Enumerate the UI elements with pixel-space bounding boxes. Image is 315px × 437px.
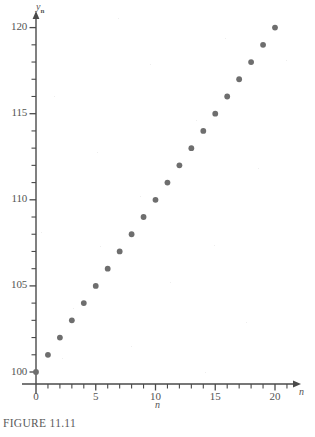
figure-caption: FIGURE 11.11 [3,417,76,429]
y-axis-label: yn [36,1,44,15]
y-tick-label: 110 [12,192,28,204]
scatter-plot: 10010511011512005101520 yn n [0,0,315,400]
data-point [177,162,183,168]
paper-speck [131,346,132,347]
data-point [69,317,75,323]
data-point [224,94,230,100]
paper-speck [214,245,215,246]
paper-speck [246,322,247,323]
paper-speck [225,38,226,39]
x-axis-label: n [299,386,304,397]
data-point [105,266,111,272]
data-point [57,335,63,341]
paper-speck [73,308,74,309]
paper-speck [196,120,197,121]
y-tick-label: 120 [11,20,27,32]
data-point [129,231,135,237]
paper-speck [150,64,151,65]
x-axis-caption-label: n [0,399,315,410]
paper-speck [97,152,98,153]
y-tick-label: 105 [11,278,27,290]
data-point [236,76,242,82]
data-point [93,283,99,289]
plot-svg [0,0,315,400]
data-point [33,369,39,375]
data-point [141,214,147,220]
data-point [153,197,159,203]
paper-speck [62,358,63,359]
data-point [188,145,194,151]
paper-speck [54,96,55,97]
y-tick-label: 100 [11,365,27,377]
data-point [260,42,266,48]
data-point [200,128,206,134]
paper-speck [100,246,101,247]
paper-speck [140,196,141,197]
paper-speck [170,282,171,283]
paper-speck [258,168,259,169]
y-tick-label: 115 [12,106,28,118]
data-point [272,25,278,31]
data-point [165,180,171,186]
data-point [117,249,123,255]
data-point [212,111,218,117]
figure-11-11: 10010511011512005101520 yn n n FIGURE 11… [0,0,315,437]
data-point [248,59,254,65]
paper-speck [286,60,287,61]
y-axis-label-subscript: n [40,7,44,15]
paper-speck [41,232,42,233]
paper-speck [205,372,206,373]
paper-speck [118,18,119,19]
data-point [45,352,51,358]
data-point [81,300,87,306]
